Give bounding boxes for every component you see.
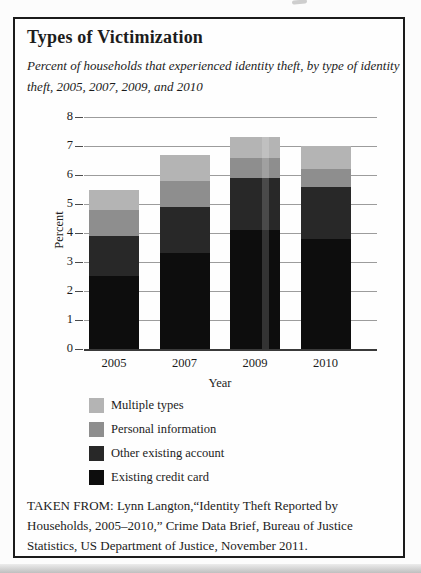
legend-item: Personal information [89, 417, 224, 441]
plot-area [84, 117, 377, 351]
x-tick-label: 2007 [172, 356, 197, 371]
bar-2009 [230, 137, 280, 349]
legend-item: Existing credit card [89, 465, 224, 489]
figure-frame: Types of Victimization Percent of househ… [13, 17, 405, 558]
x-axis-title: Year [208, 376, 231, 391]
y-tick-mark [75, 320, 83, 321]
gridline [84, 117, 377, 118]
bar-2007 [160, 155, 210, 349]
legend-label: Existing credit card [111, 470, 209, 485]
y-tick-label: 8 [41, 109, 73, 124]
y-tick-mark [75, 233, 83, 234]
bar-segment [89, 276, 139, 349]
y-tick-mark [75, 175, 83, 176]
legend-swatch [89, 398, 104, 413]
bar-segment [160, 253, 210, 349]
bar-segment [89, 190, 139, 210]
y-tick-mark [75, 262, 83, 263]
legend-swatch [89, 422, 104, 437]
subtitle-line-2: theft, 2005, 2007, 2009, and 2010 [27, 79, 203, 94]
figure-title: Types of Victimization [27, 27, 203, 48]
legend-swatch [89, 446, 104, 461]
bar-segment [301, 239, 351, 349]
y-tick-mark [75, 349, 83, 350]
y-tick-label: 7 [41, 138, 73, 153]
y-tick-label: 6 [41, 167, 73, 182]
bar-2010 [301, 146, 351, 349]
legend-label: Personal information [111, 422, 216, 437]
source-text: TAKEN FROM: Lynn Langton,“Identity Theft… [27, 496, 353, 556]
scan-streak [262, 137, 269, 349]
source-line-3: Statistics, US Department of Justice, No… [27, 538, 308, 553]
figure-subtitle: Percent of households that experienced i… [27, 55, 399, 97]
page-edge-shadow [0, 564, 421, 573]
page: Types of Victimization Percent of househ… [0, 0, 421, 573]
bar-segment [89, 236, 139, 277]
source-line-1: TAKEN FROM: Lynn Langton,“Identity Theft… [27, 498, 338, 513]
y-tick-label: 5 [41, 196, 73, 211]
bar-segment [160, 207, 210, 253]
y-tick-mark [75, 146, 83, 147]
legend-item: Multiple types [89, 393, 224, 417]
bar-segment [230, 137, 280, 157]
legend-label: Multiple types [111, 398, 184, 413]
x-tick-label: 2005 [102, 356, 127, 371]
y-tick-label: 0 [41, 341, 73, 356]
bar-2005 [89, 190, 139, 350]
y-tick-mark [75, 117, 83, 118]
x-tick-label: 2009 [243, 356, 268, 371]
bar-segment [160, 181, 210, 207]
bar-segment [89, 210, 139, 236]
bar-segment [230, 230, 280, 349]
legend-item: Other existing account [89, 441, 224, 465]
y-tick-mark [75, 291, 83, 292]
y-tick-label: 2 [41, 283, 73, 298]
legend-swatch [89, 470, 104, 485]
scan-artifact [292, 0, 307, 5]
subtitle-line-1: Percent of households that experienced i… [27, 58, 399, 73]
bar-segment [230, 158, 280, 178]
y-tick-label: 1 [41, 312, 73, 327]
bar-segment [301, 169, 351, 186]
y-tick-label: 4 [41, 225, 73, 240]
bar-segment [230, 178, 280, 230]
bar-segment [301, 146, 351, 169]
source-line-2: Households, 2005–2010,” Crime Data Brief… [27, 518, 353, 533]
bar-segment [301, 187, 351, 239]
x-tick-label: 2010 [313, 356, 338, 371]
legend-label: Other existing account [111, 446, 224, 461]
legend: Multiple typesPersonal informationOther … [89, 393, 224, 489]
y-tick-label: 3 [41, 254, 73, 269]
y-tick-mark [75, 204, 83, 205]
bar-segment [160, 155, 210, 181]
